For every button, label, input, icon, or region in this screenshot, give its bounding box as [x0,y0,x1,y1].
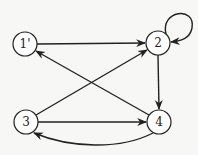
edge-4-to-3-curved [34,133,153,145]
graph-canvas: 1' 2 3 4 [0,0,198,155]
node-2: 2 [146,31,170,55]
edge-1-to-2 [37,43,145,44]
svg-text:1': 1' [20,37,31,51]
svg-text:3: 3 [22,115,30,129]
node-1: 1' [13,32,37,56]
edge-2-to-4 [158,55,159,109]
svg-text:2: 2 [154,36,162,50]
node-3: 3 [14,110,38,134]
svg-text:4: 4 [155,115,163,129]
node-4: 4 [147,110,171,134]
